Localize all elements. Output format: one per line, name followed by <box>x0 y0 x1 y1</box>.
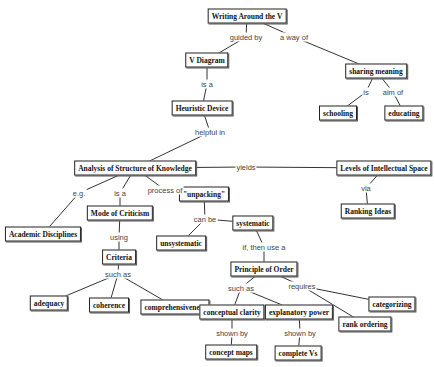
concept-node-ranking: Ranking Ideas <box>341 204 395 219</box>
concept-map: Writing Around the VV Diagramsharing mea… <box>0 0 434 367</box>
concept-node-unpacking: "unpacking" <box>179 187 229 202</box>
concept-node-conceptmaps: concept maps <box>205 345 257 360</box>
concept-node-schooling: schooling <box>319 106 357 121</box>
concept-node-levels: Levels of Intellectual Space <box>336 161 431 176</box>
link-label-wayof: a way of <box>279 33 309 42</box>
link-label-canbe: can be <box>193 215 218 224</box>
concept-node-adequacy: adequacy <box>30 296 68 311</box>
link-label-shownby1: shown by <box>215 329 249 338</box>
link-label-isa2: is a <box>113 189 127 198</box>
link-label-using: using <box>109 233 129 242</box>
link-label-shownby2: shown by <box>283 329 317 338</box>
link-label-requires: requires <box>287 282 316 291</box>
concept-node-analysis: Analysis of Structure of Knowledge <box>74 161 196 176</box>
link-label-is: is <box>362 88 369 97</box>
concept-node-heuristic: Heuristic Device <box>172 101 233 116</box>
concept-node-conceptual: conceptual clarity <box>199 305 264 320</box>
link-label-eg: e.g. <box>72 189 87 198</box>
link-label-suchas1: such as <box>104 270 132 279</box>
link-label-yields: yields <box>235 163 256 172</box>
concept-node-sharing: sharing meaning <box>345 64 407 79</box>
concept-node-academic: Academic Disciplines <box>5 227 81 242</box>
concept-node-rankordering: rank ordering <box>338 317 391 332</box>
concept-node-writing: Writing Around the V <box>208 9 287 24</box>
link-label-ifthen: if, then use a <box>242 243 287 252</box>
concept-node-mode: Mode of Criticism <box>87 206 153 221</box>
concept-node-vdiagram: V Diagram <box>185 53 228 68</box>
concept-node-coherence: coherence <box>89 298 129 313</box>
concept-node-categorizing: categorizing <box>368 297 415 312</box>
link-label-aimof: aim of <box>382 88 404 97</box>
concept-node-educating: educating <box>384 106 423 121</box>
concept-node-criteria: Criteria <box>102 250 136 265</box>
concept-node-unsystematic: unsystematic <box>156 236 206 251</box>
link-label-suchas2: such as <box>227 284 255 293</box>
link-label-helpful: helpful in <box>194 128 226 137</box>
link-label-guided: guided by <box>229 33 264 42</box>
concept-node-explanatory: explanatory power <box>265 305 333 320</box>
link-label-processof: process of <box>147 186 184 195</box>
link-label-isa1: is a <box>200 80 214 89</box>
link-label-via: via <box>360 184 372 193</box>
concept-node-systematic: systematic <box>232 216 273 231</box>
concept-node-principle: Principle of Order <box>230 262 297 277</box>
concept-node-completevs: complete Vs <box>275 346 322 361</box>
